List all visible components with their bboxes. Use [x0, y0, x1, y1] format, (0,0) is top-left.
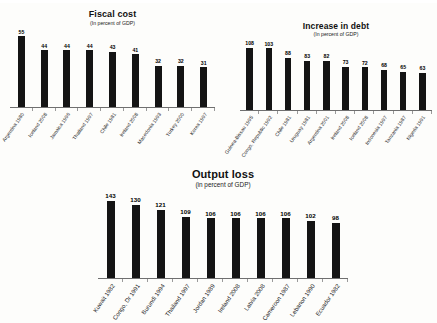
x-axis-label-cell: Tanzania 1987: [394, 115, 413, 167]
bar: [362, 67, 369, 111]
bar: [63, 50, 70, 107]
bar: [132, 54, 139, 107]
bar-value-label: 109: [180, 209, 190, 215]
bar-slot: 41: [124, 30, 147, 108]
bar-slot: 106: [273, 193, 298, 279]
chart-panel-increase-in-debt: Increase in debt (In percent of GDP) 108…: [240, 22, 432, 160]
bar-slot: 32: [147, 30, 170, 108]
x-axis-label-cell: Argentina 1980: [10, 112, 33, 164]
bar-slot: 102: [298, 193, 323, 279]
bar-value-label: 32: [155, 59, 161, 64]
bar-slot: 83: [298, 41, 317, 111]
x-axis-label-cell: Macedonia 1993: [147, 112, 170, 164]
x-axis-label-cell: Congo, Dr 1991: [123, 283, 148, 323]
chart-panel-fiscal-cost: Fiscal cost (In percent of GDP) 55444444…: [10, 10, 215, 158]
bar-slot: 55: [10, 30, 33, 108]
bar: [177, 66, 184, 108]
x-axis-ticks-fiscal-cost: [10, 108, 215, 111]
axis-tick: [56, 108, 79, 111]
axis-tick: [101, 108, 124, 111]
x-axis-label: Chile 1981: [99, 112, 117, 134]
bar-slot: 106: [248, 193, 273, 279]
axis-tick: [278, 111, 297, 114]
bar-value-label: 98: [332, 215, 339, 221]
bar-value-label: 32: [178, 59, 184, 64]
bar-slot: 65: [394, 41, 413, 111]
bar: [107, 201, 115, 279]
bar-value-label: 44: [87, 44, 93, 49]
bar: [400, 72, 407, 112]
axis-tick: [147, 108, 170, 111]
axis-tick: [78, 108, 101, 111]
bar: [182, 217, 190, 279]
bar-slot: 103: [259, 41, 278, 111]
bar: [86, 50, 93, 107]
bar: [323, 61, 330, 111]
bar-value-label: 72: [362, 61, 368, 66]
bar-slot: 68: [374, 41, 393, 111]
bar: [246, 48, 253, 111]
axis-tick: [10, 108, 33, 111]
axis-tick: [240, 111, 259, 114]
plot-area-output-loss: 14313012110910610610610610298: [98, 193, 348, 279]
bar-value-label: 106: [255, 211, 265, 217]
bar-value-label: 143: [105, 193, 115, 199]
bar-value-label: 106: [280, 211, 290, 217]
bar: [304, 61, 311, 112]
bar-slot: 108: [240, 41, 259, 111]
bar-value-label: 106: [230, 211, 240, 217]
x-axis-label-cell: Thailand 1997: [78, 112, 101, 164]
bar-slot: 109: [173, 193, 198, 279]
x-axis-label-cell: Thailand 1997: [173, 283, 198, 323]
bar-value-label: 121: [155, 202, 165, 208]
bar-value-label: 31: [201, 61, 207, 66]
bar-slot: 121: [148, 193, 173, 279]
bar-value-label: 82: [324, 54, 330, 59]
bar: [266, 48, 273, 111]
chart-panel-output-loss: Output loss (in percent of GDP) 14313012…: [98, 168, 348, 320]
plot-area-increase-in-debt: 1081038883827372686563: [240, 41, 432, 111]
x-axis-label: Kuwait 1982: [92, 283, 116, 313]
x-axis-label-cell: Korea 1997: [192, 112, 215, 164]
bar-value-label: 44: [64, 44, 70, 49]
bar-slot: 32: [169, 30, 192, 108]
bar-value-label: 88: [285, 51, 291, 56]
axis-tick: [298, 111, 317, 114]
bar: [200, 67, 207, 107]
bar-slot: 82: [317, 41, 336, 111]
chart-title-output-loss: Output loss: [98, 168, 348, 180]
bar-slot: 73: [336, 41, 355, 111]
bar-slot: 44: [56, 30, 79, 108]
bar-value-label: 63: [420, 66, 426, 71]
bar-slot: 106: [198, 193, 223, 279]
bar-value-label: 106: [205, 211, 215, 217]
bar-slot: 44: [33, 30, 56, 108]
x-axis-label-cell: Chile 1981: [101, 112, 124, 164]
bar: [282, 218, 290, 279]
bar-value-label: 73: [343, 60, 349, 65]
chart-title-fiscal-cost: Fiscal cost: [10, 10, 215, 20]
axis-tick: [169, 108, 192, 111]
bar: [342, 67, 349, 111]
bar: [307, 221, 315, 279]
x-axis-label-cell: Turkey 2000: [169, 112, 192, 164]
bar-value-label: 68: [381, 63, 387, 68]
bar-value-label: 65: [400, 65, 406, 70]
chart-subtitle-increase-in-debt: (In percent of GDP): [240, 32, 432, 38]
plot-area-fiscal-cost: 554444444341323231: [10, 30, 215, 108]
axis-tick: [259, 111, 278, 114]
x-axis-label-cell: Congo, Republic 1992: [259, 115, 278, 167]
axis-tick: [374, 111, 393, 114]
chart-subtitle-fiscal-cost: (In percent of GDP): [10, 21, 215, 27]
axis-tick: [124, 108, 147, 111]
bar-value-label: 43: [110, 45, 116, 50]
bar-value-label: 103: [264, 42, 273, 47]
bar-value-label: 130: [130, 197, 140, 203]
bar-series-output-loss: 14313012110910610610610610298: [98, 193, 348, 279]
axis-tick: [33, 108, 56, 111]
bar-slot: 106: [223, 193, 248, 279]
x-axis-label-cell: Ecuador 1982: [323, 283, 348, 323]
bar: [419, 73, 426, 111]
x-axis-label-cell: Nigeria 1991: [413, 115, 432, 167]
x-axis-labels-fiscal-cost: Argentina 1980Iceland 2008Jamaica 1996Th…: [10, 112, 215, 164]
